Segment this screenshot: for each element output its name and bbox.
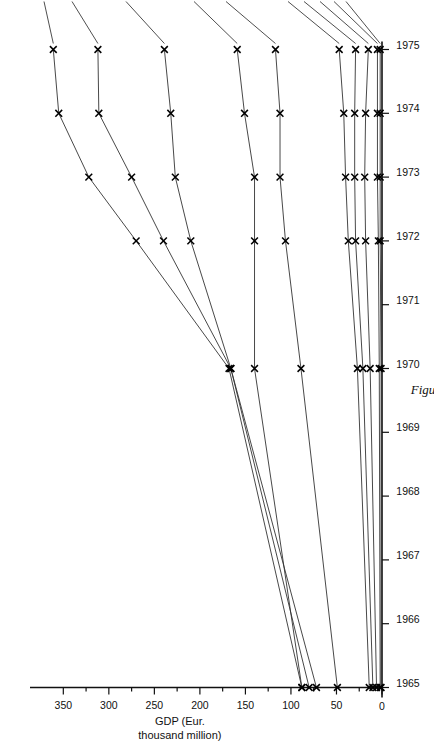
data-point-marker <box>128 173 135 180</box>
x-tick-label: 1970 <box>396 357 420 369</box>
y-tick-label: 300 <box>100 699 118 711</box>
data-point-marker <box>160 237 167 244</box>
chart-series-markers <box>50 46 385 691</box>
data-point-marker <box>133 237 140 244</box>
y-tick-label: 150 <box>237 699 255 711</box>
y-axis-title-line2: GDP (Eur. <box>155 715 205 727</box>
y-tick-label: 350 <box>55 699 73 711</box>
x-tick-label: 1965 <box>396 676 420 688</box>
figure-1-5: 1965196619671968196919701971197219731974… <box>0 0 434 749</box>
y-tick-label: 200 <box>191 699 209 711</box>
series-label-leader <box>194 1 237 43</box>
series-line <box>53 49 302 687</box>
data-point-marker <box>85 173 92 180</box>
x-tick-label: 1971 <box>396 293 420 305</box>
series-label-leaders <box>44 1 380 43</box>
rotated-figure-container: 1965196619671968196919701971197219731974… <box>0 0 434 749</box>
series-line <box>98 49 309 687</box>
y-tick-label: 250 <box>146 699 164 711</box>
x-axis-tick-labels: 1965196619671968196919701971197219731974… <box>396 38 420 688</box>
y-axis-tick-labels: 050100150200250300350 <box>55 699 386 711</box>
figure-caption: Figure 1.5 <box>410 382 434 397</box>
y-tick-label: 50 <box>331 699 343 711</box>
series-label-leader <box>304 1 356 43</box>
x-tick-label: 1969 <box>396 421 420 433</box>
figure-page: 1965196619671968196919701971197219731974… <box>0 0 434 749</box>
x-tick-label: 1967 <box>396 548 420 560</box>
series-line <box>275 49 337 687</box>
chart-series-lines <box>53 49 381 687</box>
y-tick-label: 0 <box>379 699 385 711</box>
x-tick-label: 1973 <box>396 166 420 178</box>
series-label-leader <box>126 1 164 43</box>
y-tick-label: 100 <box>282 699 300 711</box>
chart-axes <box>30 41 389 697</box>
series-label-leader <box>346 1 380 43</box>
x-tick-label: 1968 <box>396 485 420 497</box>
x-tick-label: 1974 <box>396 102 420 114</box>
series-label-leader <box>334 1 377 43</box>
y-axis-title-line1: thousand million) <box>138 729 221 741</box>
series-label-leader <box>320 1 368 43</box>
data-point-marker <box>187 237 194 244</box>
x-tick-label: 1972 <box>396 229 420 241</box>
series-label-leader <box>44 1 53 43</box>
x-tick-label: 1975 <box>396 38 420 50</box>
series-line <box>237 49 302 687</box>
series-label-leader <box>288 1 339 43</box>
series-line <box>164 49 316 687</box>
x-tick-label: 1966 <box>396 612 420 624</box>
series-label-leader <box>226 1 275 43</box>
line-chart: 1965196619671968196919701971197219731974… <box>0 0 434 749</box>
series-label-leader <box>72 1 98 43</box>
